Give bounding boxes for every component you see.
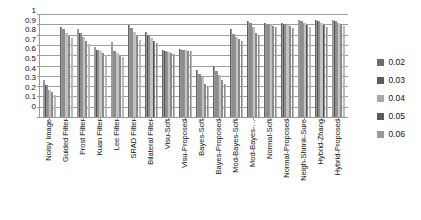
y-tick-label: 0.4	[25, 65, 36, 72]
bar	[343, 26, 345, 117]
bar-group	[313, 14, 330, 117]
legend-item[interactable]: 0.06	[377, 130, 405, 139]
x-label-cell: Hybrid-Proposed	[329, 117, 346, 215]
bar-groups	[40, 14, 348, 117]
x-axis-label: Normal-Soft	[266, 119, 274, 159]
bar-group	[211, 14, 228, 117]
legend-label: 0.02	[388, 58, 405, 67]
legend-swatch-icon	[377, 59, 384, 66]
bar-group	[58, 14, 75, 117]
bar-group	[160, 14, 177, 117]
legend-label: 0.04	[388, 94, 405, 103]
bar	[292, 28, 294, 117]
bar	[241, 41, 243, 117]
x-axis-label: Noisy Image	[45, 119, 53, 161]
legend-item[interactable]: 0.02	[377, 58, 405, 67]
x-label-cell: Hybrid-Zhang	[312, 117, 329, 215]
y-tick-label: 0.7	[25, 36, 36, 43]
bar	[258, 35, 260, 117]
bar	[207, 86, 209, 117]
legend-swatch-icon	[377, 77, 384, 84]
bar	[54, 95, 56, 117]
bar-group	[92, 14, 109, 117]
x-label-cell: Mod-Bayes-…	[244, 117, 261, 215]
x-label-cell: Visu-Soft	[159, 117, 176, 215]
x-axis-label: Visu-Soft	[164, 119, 172, 149]
x-axis-label: Visu-Proposed	[181, 119, 189, 168]
bar	[173, 54, 175, 117]
legend-label: 0.03	[388, 76, 405, 85]
x-axis-label: Guided Filter	[62, 119, 70, 162]
legend-label: 0.05	[388, 112, 405, 121]
legend-item[interactable]: 0.04	[377, 94, 405, 103]
legend-label: 0.06	[388, 130, 405, 139]
plot-area	[39, 14, 348, 118]
x-label-cell: Bilateral Filter	[142, 117, 159, 215]
x-axis-label: Hybrid-Proposed	[334, 119, 342, 175]
bar	[122, 57, 124, 117]
x-axis-label: Bayes-Proposed	[215, 119, 223, 174]
x-axis-label: Bayes-Soft	[198, 119, 206, 156]
x-label-cell: Visu-Proposed	[176, 117, 193, 215]
legend-swatch-icon	[377, 131, 384, 138]
bar-group	[143, 14, 160, 117]
x-axis-label: SRAD Filter	[130, 119, 138, 159]
bar	[105, 55, 107, 117]
bar-group	[245, 14, 262, 117]
y-tick-label: 0.3	[25, 74, 36, 81]
x-label-cell: Normal-Proposed	[278, 117, 295, 215]
bar	[88, 44, 90, 117]
bar-group	[194, 14, 211, 117]
x-axis-label: Neigh-Shrink-Sure	[300, 119, 308, 181]
bar-group	[126, 14, 143, 117]
x-label-cell: Guided Filter	[57, 117, 74, 215]
y-tick-label: 1	[32, 7, 36, 14]
y-axis-tick-labels: 10.90.80.70.60.50.40.30.20.10	[20, 10, 36, 113]
x-axis-label: Kuan Filter	[96, 119, 104, 155]
x-axis-label: Bilateral Filter	[147, 119, 155, 165]
bar	[139, 40, 141, 117]
bar-chart: 10.90.80.70.60.50.40.30.20.10 Noisy Imag…	[0, 0, 421, 220]
bar-group	[41, 14, 58, 117]
chart-legend: 0.020.030.040.050.06	[377, 58, 405, 139]
x-axis-label: Frost Filter	[79, 119, 87, 155]
x-label-cell: Frost Filter	[74, 117, 91, 215]
legend-item[interactable]: 0.05	[377, 112, 405, 121]
y-tick-label: 0	[32, 103, 36, 110]
bar	[309, 27, 311, 117]
bar-group	[330, 14, 347, 117]
x-axis-labels: Noisy ImageGuided FilterFrost FilterKuan…	[39, 117, 347, 215]
x-label-cell: Normal-Soft	[261, 117, 278, 215]
bar-group	[279, 14, 296, 117]
bar-group	[228, 14, 245, 117]
bar	[156, 43, 158, 117]
bar	[190, 51, 192, 117]
plot-wrapper: 10.90.80.70.60.50.40.30.20.10	[20, 10, 350, 122]
bar	[326, 27, 328, 117]
x-axis-label: Normal-Proposed	[283, 119, 291, 178]
y-tick-label: 0.2	[25, 84, 36, 91]
x-axis-label: Lee Filter	[113, 119, 121, 150]
x-label-cell: SRAD Filter	[125, 117, 142, 215]
y-tick-label: 0.1	[25, 93, 36, 100]
x-label-cell: Noisy Image	[40, 117, 57, 215]
x-label-cell: Lee Filter	[108, 117, 125, 215]
x-label-cell: Bayes-Soft	[193, 117, 210, 215]
y-tick-label: 0.8	[25, 26, 36, 33]
bar	[71, 38, 73, 117]
y-tick-label: 0.5	[25, 55, 36, 62]
x-axis-label: Mod-Bayes-…	[249, 119, 257, 167]
legend-swatch-icon	[377, 113, 384, 120]
legend-swatch-icon	[377, 95, 384, 102]
x-label-cell: Neigh-Shrink-Sure	[295, 117, 312, 215]
bar-group	[109, 14, 126, 117]
y-tick-label: 0.6	[25, 45, 36, 52]
bar-group	[177, 14, 194, 117]
x-label-cell: Kuan Filter	[91, 117, 108, 215]
legend-item[interactable]: 0.03	[377, 76, 405, 85]
bar-group	[296, 14, 313, 117]
bar	[275, 27, 277, 117]
x-axis-label: Mod-Bayes-Soft	[232, 119, 240, 173]
x-axis-label: Hybrid-Zhang	[317, 119, 325, 164]
bar	[224, 84, 226, 117]
